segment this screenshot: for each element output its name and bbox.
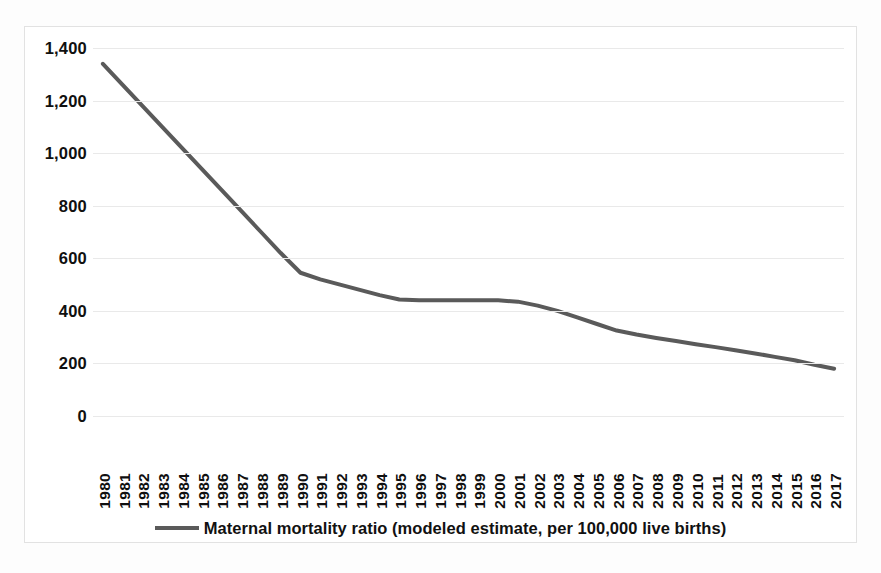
x-axis-tick-label: 2011 [709,474,723,509]
x-axis-tick-label: 1996 [412,473,426,509]
y-axis-tick-label: 0 [25,407,87,426]
x-axis-tick-label: 1995 [392,473,406,509]
x-axis-tick-label: 2004 [570,473,584,509]
x-axis-tick-label: 1981 [116,473,130,509]
series-line-chart [93,27,844,427]
y-axis-tick-label: 400 [25,301,87,320]
x-axis-tick-label: 1999 [471,473,485,509]
x-axis-tick-label: 2015 [788,473,802,509]
x-axis-tick-label: 1986 [214,473,228,509]
gridline [93,416,844,417]
x-axis-tick-label: 1994 [373,473,387,509]
x-axis-tick-label: 2005 [590,473,604,509]
x-axis-tick-label: 2012 [728,473,742,509]
x-axis-tick-label: 1998 [452,473,466,509]
x-axis-tick-label: 1980 [96,473,110,509]
x-axis-tick-label: 1983 [155,473,169,509]
y-axis-tick-label: 800 [25,196,87,215]
legend-label: Maternal mortality ratio (modeled estima… [204,519,726,538]
x-axis-tick-label: 1997 [432,473,446,509]
x-axis-tick-label: 2008 [649,473,663,509]
x-axis-tick-label: 1991 [313,473,327,509]
x-axis-tick-label: 1990 [294,473,308,509]
chart-frame: 02004006008001,0001,2001,400 19801981198… [24,26,857,543]
x-axis-tick-label: 1992 [333,473,347,509]
x-axis-tick-label: 1988 [254,473,268,509]
plot-area [93,27,844,427]
chart-legend: Maternal mortality ratio (modeled estima… [25,511,856,545]
x-axis-tick-label: 1993 [353,473,367,509]
x-axis-tick-label: 2002 [531,473,545,509]
y-axis: 02004006008001,0001,2001,400 [25,27,87,427]
gridline [93,101,844,102]
plot-region: 02004006008001,0001,2001,400 [25,27,856,427]
x-axis-tick-label: 1984 [175,473,189,509]
x-axis: 1980198119821983198419851986198719881989… [93,427,844,509]
y-axis-tick-label: 1,400 [25,39,87,58]
x-axis-tick-label: 1987 [234,473,248,509]
x-axis-tick-label: 2013 [748,473,762,509]
gridline [93,153,844,154]
x-axis-tick-label: 2003 [550,473,564,509]
x-axis-tick-label: 2006 [610,473,624,509]
x-axis-tick-label: 2001 [511,473,525,509]
x-axis-tick-label: 2017 [827,473,841,509]
x-axis-tick-label: 1982 [135,473,149,509]
x-axis-tick-label: 1989 [274,473,288,509]
x-axis-tick-label: 2016 [807,473,821,509]
gridline [93,363,844,364]
gridline [93,206,844,207]
y-axis-tick-label: 1,200 [25,91,87,110]
x-axis-tick-label: 1985 [195,473,209,509]
x-axis-tick-label: 2000 [491,473,505,509]
series-line [103,64,834,369]
y-axis-tick-label: 1,000 [25,144,87,163]
x-axis-tick-label: 2010 [689,473,703,509]
y-axis-tick-label: 200 [25,354,87,373]
x-axis-tick-label: 2009 [669,473,683,509]
gridline [93,258,844,259]
page-root: 02004006008001,0001,2001,400 19801981198… [0,0,881,573]
series-line-swatch [155,526,199,530]
x-axis-tick-label: 2014 [768,473,782,509]
gridline [93,48,844,49]
gridline [93,311,844,312]
x-axis-tick-label: 2007 [629,473,643,509]
y-axis-tick-label: 600 [25,249,87,268]
